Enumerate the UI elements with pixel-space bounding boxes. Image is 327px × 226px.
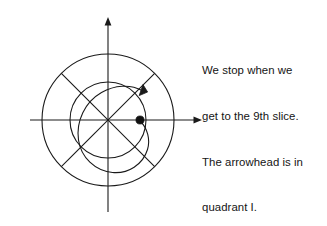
figure-page: We stop when we get to the 9th slice. Th… [0,0,327,226]
start-point-dot [136,116,144,124]
caption-line-1: We stop when we [202,63,324,78]
caption-line-4: quadrant I. [202,200,324,215]
explanation-text: We stop when we get to the 9th slice. Th… [202,33,324,226]
caption-line-3: The arrowhead is in [202,155,324,170]
caption-line-2: get to the 9th slice. [202,109,324,124]
